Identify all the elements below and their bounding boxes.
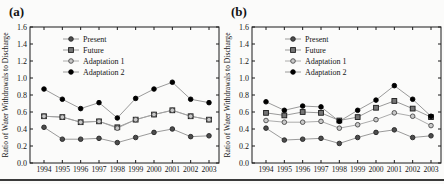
marker-present: [207, 134, 212, 139]
y-tick-label: 0.2: [17, 142, 27, 151]
bottom-rule: [0, 179, 444, 181]
marker-present: [300, 137, 305, 142]
panel-label: (a): [9, 4, 24, 19]
marker-adaptation-1: [42, 114, 47, 119]
marker-adaptation-1: [282, 120, 287, 125]
marker-present: [429, 134, 434, 139]
marker-present: [115, 140, 120, 145]
series-line-present: [266, 128, 431, 143]
y-tick-label: 1.2: [239, 57, 249, 66]
marker-adaptation-1: [78, 120, 83, 125]
x-tick-label: 2000: [146, 165, 161, 174]
plot-frame: [252, 27, 441, 163]
legend-label-adaptation-2: Adaptation 2: [83, 68, 125, 77]
panel-a: 0.00.20.40.60.81.01.21.41.61994199519961…: [0, 0, 222, 184]
plot-frame: [30, 27, 219, 163]
marker-present: [264, 126, 269, 131]
x-tick-label: 2000: [368, 165, 383, 174]
marker-adaptation-2: [207, 100, 212, 105]
marker-present: [42, 125, 47, 130]
x-tick-label: 2002: [183, 165, 198, 174]
marker-adaptation-2: [60, 97, 65, 102]
marker-future: [355, 115, 360, 120]
marker-present: [410, 135, 415, 140]
marker-adaptation-2: [97, 100, 102, 105]
marker-adaptation-1: [207, 117, 212, 122]
marker-adaptation-2: [170, 80, 175, 85]
y-tick-label: 1.0: [17, 74, 27, 83]
series-line-future: [266, 101, 431, 121]
x-tick-label: 1997: [313, 165, 328, 174]
x-tick-label: 1994: [258, 165, 273, 174]
marker-adaptation-2: [152, 87, 157, 92]
marker-future: [264, 110, 269, 115]
marker-present: [133, 135, 138, 140]
y-tick-label: 0.4: [239, 125, 249, 134]
y-tick-label: 1.2: [17, 57, 27, 66]
x-tick-label: 2002: [405, 165, 420, 174]
marker-adaptation-2: [392, 83, 397, 88]
marker-present: [337, 141, 342, 146]
chart-a: 0.00.20.40.60.81.01.21.41.61994199519961…: [0, 0, 222, 184]
marker-future: [69, 48, 74, 53]
legend-label-future: Future: [305, 46, 326, 55]
marker-adaptation-2: [300, 104, 305, 109]
x-tick-label: 2001: [387, 165, 402, 174]
marker-present: [170, 127, 175, 132]
marker-future: [392, 99, 397, 104]
marker-adaptation-1: [300, 120, 305, 125]
marker-present: [97, 136, 102, 141]
x-tick-label: 2001: [165, 165, 180, 174]
y-tick-label: 0.0: [17, 159, 27, 168]
x-tick-label: 1995: [55, 165, 70, 174]
marker-future: [282, 113, 287, 118]
marker-future: [374, 105, 379, 110]
x-tick-label: 1996: [73, 165, 88, 174]
series-line-present: [44, 127, 209, 142]
marker-adaptation-1: [152, 112, 157, 117]
marker-adaptation-2: [69, 70, 74, 75]
marker-adaptation-1: [60, 115, 65, 120]
series-line-adaptation-1: [44, 110, 209, 128]
marker-adaptation-2: [355, 108, 360, 113]
marker-adaptation-2: [337, 119, 342, 124]
marker-adaptation-2: [188, 97, 193, 102]
marker-adaptation-2: [319, 105, 324, 110]
marker-adaptation-1: [291, 59, 296, 64]
marker-adaptation-1: [97, 119, 102, 124]
marker-adaptation-2: [374, 98, 379, 103]
x-tick-label: 1995: [277, 165, 292, 174]
y-tick-label: 0.2: [239, 142, 249, 151]
x-tick-label: 1996: [295, 165, 310, 174]
y-tick-label: 1.6: [17, 23, 27, 32]
marker-present: [188, 134, 193, 139]
marker-adaptation-1: [133, 117, 138, 122]
legend-label-future: Future: [83, 46, 104, 55]
marker-adaptation-1: [374, 117, 379, 122]
y-tick-label: 1.4: [17, 40, 27, 49]
legend-label-present: Present: [83, 35, 107, 44]
panel-b: 0.00.20.40.60.81.01.21.41.61994199519961…: [222, 0, 444, 184]
y-axis-title: Ratio of Water Withdrawals to Discharge: [1, 32, 10, 158]
marker-adaptation-1: [337, 126, 342, 131]
marker-adaptation-1: [69, 59, 74, 64]
marker-adaptation-2: [264, 100, 269, 105]
marker-adaptation-2: [410, 97, 415, 102]
figure: 0.00.20.40.60.81.01.21.41.61994199519961…: [0, 0, 444, 184]
marker-present: [69, 37, 74, 42]
y-tick-label: 0.8: [17, 91, 27, 100]
legend-label-present: Present: [305, 35, 329, 44]
x-tick-label: 1997: [91, 165, 106, 174]
y-tick-label: 0.4: [17, 125, 27, 134]
y-tick-label: 1.6: [239, 23, 249, 32]
marker-adaptation-2: [291, 70, 296, 75]
marker-present: [392, 128, 397, 133]
x-tick-label: 2003: [201, 165, 216, 174]
marker-present: [319, 136, 324, 141]
y-tick-label: 0.6: [17, 108, 27, 117]
chart-b: 0.00.20.40.60.81.01.21.41.61994199519961…: [222, 0, 444, 184]
marker-adaptation-2: [133, 96, 138, 101]
marker-adaptation-1: [264, 118, 269, 123]
marker-present: [60, 137, 65, 142]
marker-adaptation-2: [282, 108, 287, 113]
